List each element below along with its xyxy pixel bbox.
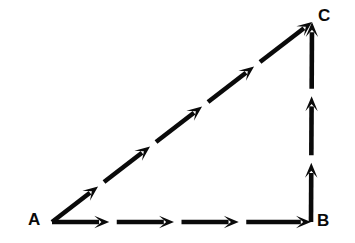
vector-ac-edge [52, 22, 312, 222]
arrow-shaft [156, 113, 194, 142]
vector-ab-edge [52, 216, 311, 228]
arrow-shaft [208, 73, 246, 102]
arrow-shaft [104, 153, 142, 182]
vertex-label-b: B [317, 212, 329, 229]
arrow-shaft [52, 193, 90, 222]
vector-bc-edge [305, 22, 318, 222]
vertex-label-c: C [318, 7, 330, 24]
arrow-shaft [260, 28, 304, 62]
figure-root: A B C [0, 0, 355, 243]
vector-triangle-diagram [0, 0, 355, 243]
vertex-label-a: A [28, 211, 40, 228]
